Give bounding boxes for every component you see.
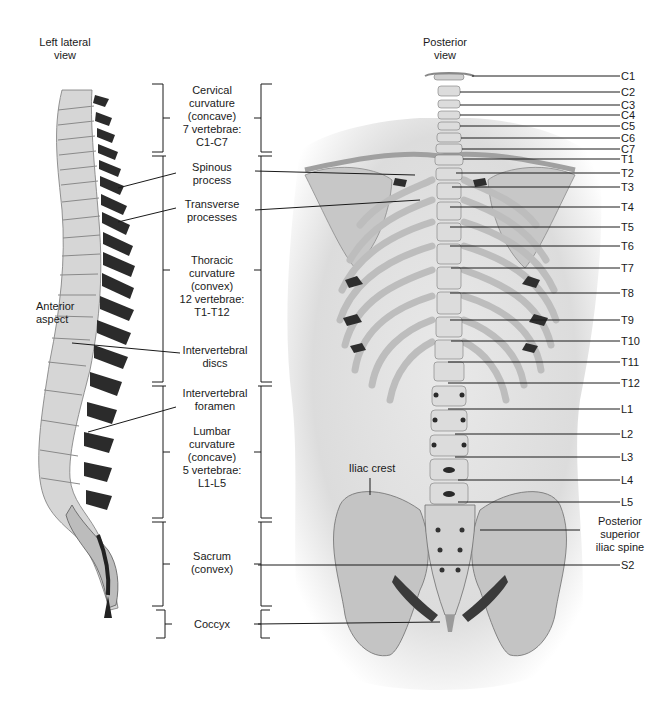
vertebra-label-t2: T2: [621, 167, 634, 179]
vertebra-label-t3: T3: [621, 181, 634, 193]
vertebra-label-t1: T1: [621, 153, 634, 165]
psis-label: Posterior superior iliac spine: [580, 515, 660, 554]
vertebra-label-t9: T9: [621, 314, 634, 326]
vertebra-label-t12: T12: [621, 377, 640, 389]
vertebra-label-c5: C5: [621, 120, 635, 132]
iliac-crest-label: Iliac crest: [340, 462, 404, 475]
vertebra-label-t8: T8: [621, 287, 634, 299]
region-label-sacrum: Sacrum (convex): [172, 550, 252, 576]
anatomy-illustration: [0, 0, 672, 716]
vertebra-label-l4: L4: [621, 474, 633, 486]
vertebra-label-t11: T11: [621, 356, 639, 368]
region-label-lumbar: Lumbar curvature (concave) 5 vertebrae: …: [172, 425, 252, 490]
structure-label-intervertebral-discs: Intervertebral discs: [172, 344, 258, 370]
vertebra-label-t6: T6: [621, 240, 634, 252]
structure-label-spinous-process: Spinous process: [172, 161, 252, 187]
vertebra-label-c2: C2: [621, 86, 635, 98]
anterior-aspect-label: Anterior aspect: [36, 300, 96, 326]
posterior-view-title: Posterior view: [410, 36, 480, 62]
vertebra-label-s2: S2: [621, 559, 634, 571]
vertebra-label-t5: T5: [621, 221, 634, 233]
lateral-spine-illustration: [39, 90, 135, 618]
vertebra-label-c1: C1: [621, 70, 635, 82]
vertebra-label-t10: T10: [621, 335, 640, 347]
lateral-view-title: Left lateral view: [30, 36, 100, 62]
vertebra-label-l2: L2: [621, 428, 633, 440]
structure-label-intervertebral-foramen: Intervertebral foramen: [172, 387, 258, 413]
vertebra-label-t4: T4: [621, 201, 634, 213]
posterior-skeleton-illustration: [287, 73, 601, 690]
region-label-cervical: Cervical curvature (concave) 7 vertebrae…: [172, 84, 252, 149]
region-label-coccyx: Coccyx: [172, 618, 252, 631]
region-label-thoracic: Thoracic curvature (convex) 12 vertebrae…: [172, 254, 252, 319]
vertebra-label-l5: L5: [621, 496, 633, 508]
vertebra-label-l3: L3: [621, 451, 633, 463]
vertebra-label-t7: T7: [621, 262, 634, 274]
structure-label-transverse-processes: Transverse processes: [172, 198, 252, 224]
vertebra-label-l1: L1: [621, 403, 633, 415]
